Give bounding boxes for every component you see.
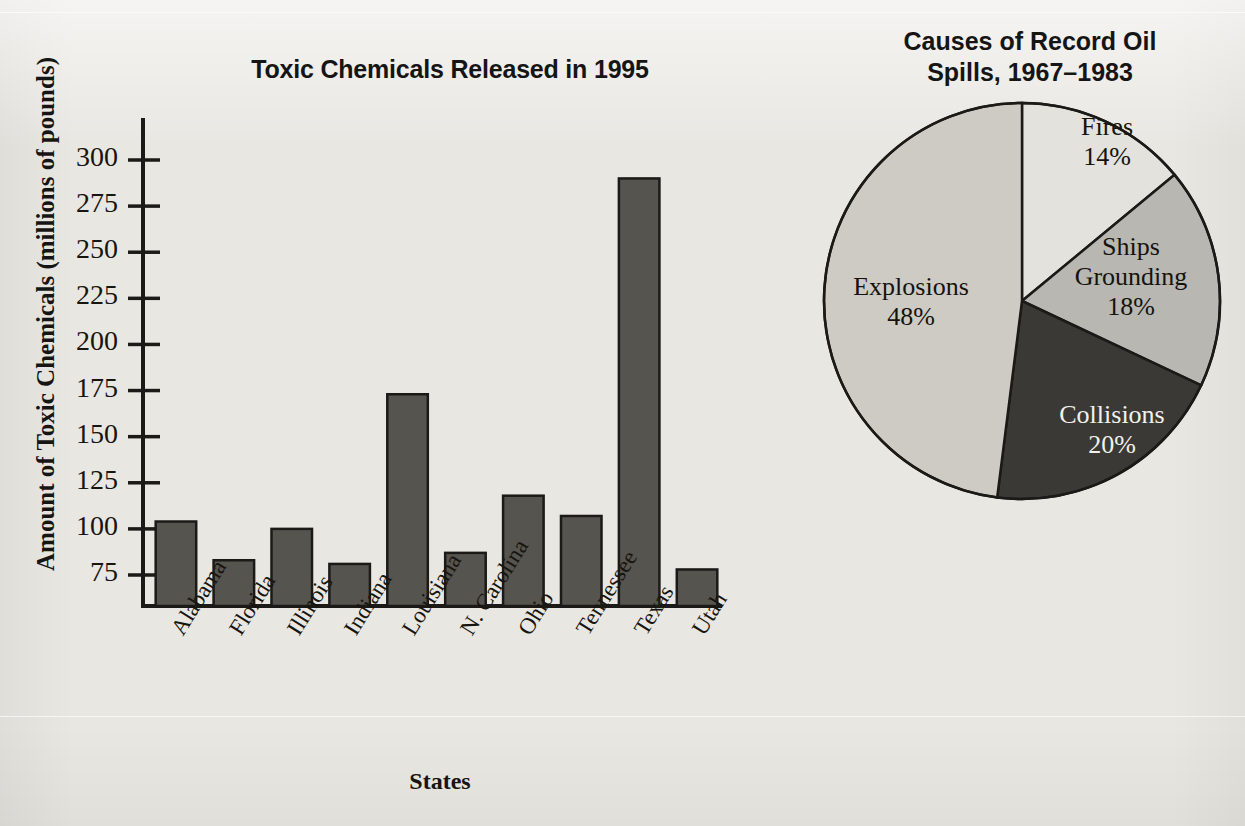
y-tick-label: 75 [48, 556, 118, 588]
bar [619, 178, 660, 606]
pie-slice-label-name: Fires [1032, 112, 1182, 142]
y-tick-label: 225 [48, 279, 118, 311]
y-tick-label: 175 [48, 372, 118, 404]
bar-chart-panel: Toxic Chemicals Released in 1995 Amount … [0, 0, 800, 826]
pie-slice-label-name-line2: Grounding [1036, 262, 1226, 292]
pie-slice-label: Collisions20% [1022, 400, 1202, 460]
pie-slice-label-percent: 48% [816, 302, 1006, 332]
bar-chart-x-axis-title: States [140, 768, 740, 795]
pie-slice-label-name: ShipsGrounding [1036, 232, 1226, 292]
pie-slice-label: Fires14% [1032, 112, 1182, 172]
pie-chart-panel: Causes of Record Oil Spills, 1967–1983 F… [800, 0, 1245, 620]
pie-slice-label-name: Collisions [1022, 400, 1202, 430]
y-tick-label: 100 [48, 510, 118, 542]
pie-slice-label-name: Explosions [816, 272, 1006, 302]
y-tick-label: 275 [48, 187, 118, 219]
y-tick-label: 300 [48, 141, 118, 173]
y-tick-label: 150 [48, 418, 118, 450]
pie-slice-label-percent: 18% [1036, 292, 1226, 322]
bar-chart-plot [0, 0, 800, 720]
y-tick-label: 200 [48, 325, 118, 357]
bar [387, 394, 428, 606]
bar-series [156, 178, 718, 606]
pie-slice-label-percent: 14% [1032, 142, 1182, 172]
pie-slice-label: Explosions48% [816, 272, 1006, 332]
pie-slice-label: ShipsGrounding18% [1036, 232, 1226, 322]
pie-slice-label-percent: 20% [1022, 430, 1202, 460]
y-tick-label: 125 [48, 464, 118, 496]
pie-slice-label-name-line1: Ships [1036, 232, 1226, 262]
y-tick-label: 250 [48, 233, 118, 265]
